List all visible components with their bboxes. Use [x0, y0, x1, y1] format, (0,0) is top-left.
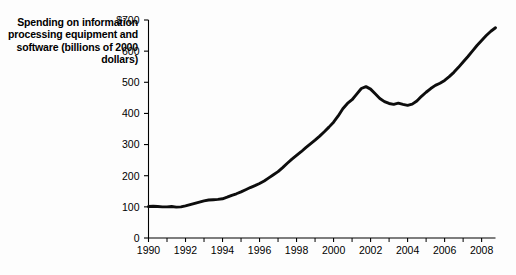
y-tick-label: $700	[116, 14, 140, 26]
x-tick-label: 2002	[359, 244, 383, 256]
y-tick-label: 500	[122, 76, 140, 88]
x-axis-ticks: 1990199219941996199820002002200420062008	[137, 238, 494, 256]
x-tick-label: 1990	[137, 244, 161, 256]
y-axis-ticks: $7006005004003002001000	[116, 14, 148, 244]
y-tick-label: 100	[122, 201, 140, 213]
y-tick-label: 400	[122, 107, 140, 119]
x-tick-label: 1992	[174, 244, 198, 256]
x-tick-label: 1998	[285, 244, 309, 256]
data-series-line	[149, 28, 496, 207]
x-tick-label: 1996	[248, 244, 272, 256]
y-tick-label: 300	[122, 138, 140, 150]
x-tick-label: 2008	[470, 244, 494, 256]
chart-container: Spending on information processing equip…	[0, 0, 516, 275]
y-tick-label: 200	[122, 170, 140, 182]
x-tick-label: 1994	[211, 244, 235, 256]
y-tick-label: 0	[134, 232, 140, 244]
x-tick-label: 2004	[396, 244, 420, 256]
x-tick-label: 2000	[322, 244, 346, 256]
y-tick-label: 600	[122, 45, 140, 57]
line-chart-plot: $7006005004003002001000 1990199219941996…	[0, 0, 516, 275]
x-tick-label: 2006	[433, 244, 457, 256]
